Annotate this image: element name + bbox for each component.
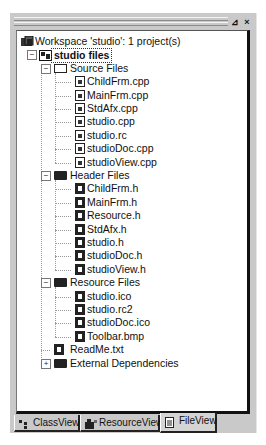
fileview-panel: ⊿ × Workspace 'studio': 1 project(s)−stu… [10,13,257,433]
tree-item-label: studio.rc2 [87,303,133,316]
tree-item-label: studioDoc.ico [87,316,150,329]
resource-icon [85,418,95,428]
tree-item-file[interactable]: studio.rc2 [21,303,241,316]
source-file-icon [75,116,85,127]
tree-item-label: Resource.h [87,209,141,222]
tree-item-label: ChildFrm.h [87,182,138,195]
tree-item-header-folder[interactable]: −Header Files [21,169,241,182]
tree-item-label: ChildFrm.cpp [87,75,149,88]
view-tabs: ClassView ResourceView FileView [14,415,254,433]
tree-item-label: Header Files [70,169,130,182]
tree-item-file[interactable]: ChildFrm.cpp [21,75,241,88]
source-file-icon [75,90,85,101]
file-icon [75,237,85,248]
tree-item-label: studio.rc [87,129,127,142]
tree-item-resource-folder[interactable]: −Resource Files [21,276,241,289]
tree-item-file[interactable]: studioDoc.h [21,249,241,262]
source-file-icon [75,157,85,168]
tree-item-label: External Dependencies [70,357,179,370]
tree-item-file[interactable]: studioDoc.cpp [21,142,241,155]
project-icon [39,49,49,60]
panel-titlebar[interactable]: ⊿ × [10,13,256,30]
tree-item-file[interactable]: studio.h [21,236,241,249]
file-icon [75,317,85,328]
file-icon [75,210,85,221]
tree-item-file[interactable]: Resource.h [21,209,241,222]
tree-item-label: MainFrm.cpp [87,89,148,102]
tree-item-readme[interactable]: ReadMe.txt [21,343,241,356]
file-icon [75,183,85,194]
file-icon [54,344,64,355]
tree-item-label: studio.ico [87,290,131,303]
tree-item-file[interactable]: StdAfx.cpp [21,102,241,115]
tree-item-file[interactable]: StdAfx.h [21,223,241,236]
file-icon [75,250,85,261]
file-icon [75,291,85,302]
collapse-toggle-icon[interactable]: − [41,278,51,288]
file-icon [75,197,85,208]
tree-item-file[interactable]: ChildFrm.h [21,182,241,195]
file-icon [75,224,85,235]
file-tree: Workspace 'studio': 1 project(s)−studio … [16,30,250,414]
tree-item-file[interactable]: studioView.cpp [21,156,241,169]
tree-item-label: ReadMe.txt [70,343,124,356]
tree-item-label: StdAfx.h [87,223,127,236]
tree-item-label: studioDoc.h [87,249,142,262]
tree-item-label: StdAfx.cpp [87,102,138,115]
tree-item-file[interactable]: studioView.h [21,263,241,276]
workspace-icon [21,36,31,47]
tree-item-label: Workspace 'studio': 1 project(s) [35,35,181,48]
file-icon [75,264,85,275]
source-file-icon [75,76,85,87]
folder-icon [54,171,67,180]
grip-line [14,22,228,26]
tree-item-label: studio.cpp [87,115,135,128]
expand-toggle-icon[interactable]: + [41,359,51,369]
tree-item-file[interactable]: studio.cpp [21,115,241,128]
tree-item-label: studioView.h [87,263,146,276]
collapse-toggle-icon[interactable]: − [41,171,51,181]
tree-item-label: Resource Files [70,276,140,289]
collapse-toggle-icon[interactable]: − [27,50,37,60]
pin-icon[interactable]: ⊿ [230,17,240,27]
class-icon [19,418,29,428]
folder-icon [54,359,67,368]
source-file-icon [75,130,85,141]
file-icon [165,417,175,427]
tab-label: ClassView [33,417,80,428]
tab-classview[interactable]: ClassView [14,415,80,432]
tree-item-source-folder[interactable]: −Source Files [21,62,241,75]
tree-item-label: MainFrm.h [87,196,137,209]
grip-line [14,17,228,21]
tab-label: FileView [179,415,217,426]
tree-item-label: Source Files [70,62,128,75]
tree-item-project[interactable]: −studio files [21,48,241,61]
tree-item-label: studioDoc.cpp [87,142,154,155]
tree-item-label: studioView.cpp [87,156,157,169]
tree-item-file[interactable]: studioDoc.ico [21,316,241,329]
tree-item-file[interactable]: studio.ico [21,290,241,303]
tree-item-external-dependencies[interactable]: +External Dependencies [21,357,241,370]
tree-item-label: Toolbar.bmp [87,330,144,343]
source-file-icon [75,143,85,154]
file-icon [75,331,85,342]
folder-open-icon [54,64,67,73]
tab-resourceview[interactable]: ResourceView [80,415,160,432]
source-file-icon [75,103,85,114]
close-icon[interactable]: × [242,17,252,27]
tree-item-workspace[interactable]: Workspace 'studio': 1 project(s) [21,35,241,48]
folder-icon [54,278,67,287]
tree-item-file[interactable]: studio.rc [21,129,241,142]
file-icon [75,304,85,315]
tree-item-file[interactable]: MainFrm.cpp [21,89,241,102]
collapse-toggle-icon[interactable]: − [41,64,51,74]
tree-item-file[interactable]: MainFrm.h [21,196,241,209]
tab-label: ResourceView [99,417,163,428]
tree-item-file[interactable]: Toolbar.bmp [21,330,241,343]
tab-fileview[interactable]: FileView [160,413,217,433]
tree-item-label: studio.h [87,236,124,249]
